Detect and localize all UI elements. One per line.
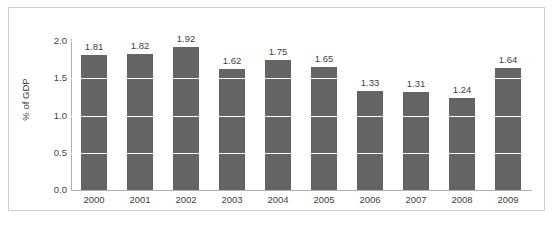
x-axis-tick-label: 2004	[258, 194, 298, 205]
bar[interactable]	[449, 98, 475, 190]
gridline-overlay	[71, 78, 531, 79]
bar-value-label: 1.75	[258, 46, 298, 57]
bar-value-label: 1.92	[166, 33, 206, 44]
gridline-overlay	[71, 116, 531, 117]
bar[interactable]	[219, 69, 245, 190]
chart-frame: % of GDP 0.00.51.01.52.0 1.811.821.921.6…	[8, 7, 545, 211]
bar-value-label: 1.65	[304, 53, 344, 64]
gridline-overlay	[71, 153, 531, 154]
chart-screenshot: % of GDP 0.00.51.01.52.0 1.811.821.921.6…	[0, 0, 555, 226]
x-axis-tick-label: 2002	[166, 194, 206, 205]
x-axis-tick-label: 2001	[120, 194, 160, 205]
y-axis-tick-label: 0.5	[27, 148, 67, 158]
y-axis-tick-label: 1.5	[27, 73, 67, 83]
bar-value-label: 1.31	[396, 78, 436, 89]
y-axis-tick-labels: 0.00.51.01.52.0	[23, 41, 67, 190]
x-axis-line	[71, 190, 532, 191]
bar-value-label: 1.33	[350, 77, 390, 88]
bar-value-label: 1.82	[120, 40, 160, 51]
bar-value-label: 1.24	[442, 84, 482, 95]
y-axis-tick-label: 1.0	[27, 111, 67, 121]
bar-value-label: 1.81	[74, 41, 114, 52]
bar[interactable]	[81, 55, 107, 190]
y-axis-tick-label: 0.0	[27, 185, 67, 195]
x-axis-tick-label: 2006	[350, 194, 390, 205]
x-axis-tick-label: 2007	[396, 194, 436, 205]
bar-value-label: 1.64	[488, 54, 528, 65]
x-axis-tick-label: 2003	[212, 194, 252, 205]
bar-value-label: 1.62	[212, 55, 252, 66]
bar[interactable]	[403, 92, 429, 190]
bar[interactable]	[495, 68, 521, 190]
y-axis-tick-label: 2.0	[27, 36, 67, 46]
plot-area: 1.811.821.921.621.751.651.331.311.241.64	[71, 41, 531, 190]
bar[interactable]	[173, 47, 199, 190]
x-axis-tick-label: 2000	[74, 194, 114, 205]
x-axis-tick-label: 2005	[304, 194, 344, 205]
bar[interactable]	[127, 54, 153, 190]
bar[interactable]	[311, 67, 337, 190]
bar[interactable]	[357, 91, 383, 190]
x-axis-tick-label: 2009	[488, 194, 528, 205]
x-axis-tick-label: 2008	[442, 194, 482, 205]
